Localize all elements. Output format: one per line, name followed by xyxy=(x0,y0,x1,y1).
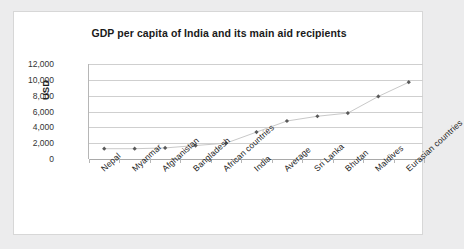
y-tick-label-0: 0 xyxy=(8,154,54,164)
chart-title: GDP per capita of India and its main aid… xyxy=(14,27,424,39)
y-tick-label-4000: 4,000 xyxy=(8,122,54,132)
data-point-bhutan xyxy=(346,111,350,115)
x-tick-mark-0 xyxy=(89,159,90,163)
y-tick-label-12000: 12,000 xyxy=(8,59,54,69)
data-point-average xyxy=(285,119,289,123)
plot-area: 02,0004,0006,0008,00010,00012,000 NepalM… xyxy=(88,64,423,159)
data-point-maldives xyxy=(376,94,380,98)
y-tick-label-2000: 2,000 xyxy=(8,138,54,148)
y-tick-label-8000: 8,000 xyxy=(8,91,54,101)
y-tick-label-10000: 10,000 xyxy=(8,75,54,85)
data-point-sri-lanka xyxy=(315,114,319,118)
data-point-myanmar xyxy=(133,147,137,151)
data-point-nepal xyxy=(102,147,106,151)
chart-panel: GDP per capita of India and its main aid… xyxy=(13,11,423,235)
y-tick-label-6000: 6,000 xyxy=(8,107,54,117)
data-point-eurasian-countries xyxy=(407,80,411,84)
data-point-afghanistan xyxy=(163,146,167,150)
